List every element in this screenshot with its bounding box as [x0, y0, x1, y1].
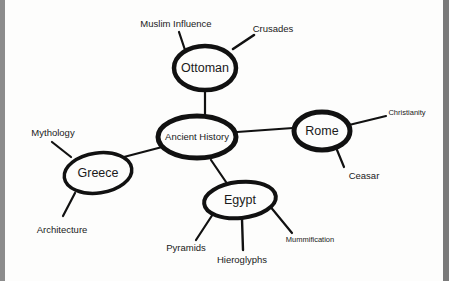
mind-map: Ottoman Ancient History Rome Greece Egyp… — [0, 0, 455, 281]
link-greece-architecture — [63, 193, 75, 216]
node-ancient-history-label: Ancient History — [165, 131, 229, 142]
link-rome-christianity — [349, 116, 386, 125]
link-center-egypt — [211, 160, 226, 182]
link-egypt-pyramids — [196, 214, 213, 240]
leaf-christianity: Christianity — [388, 108, 425, 117]
node-rome-label: Rome — [305, 124, 338, 138]
leaf-mummification: Mummification — [286, 235, 334, 244]
link-center-greece — [120, 146, 166, 158]
leaf-crusades: Crusades — [253, 23, 294, 34]
link-center-rome — [237, 128, 293, 132]
leaf-pyramids: Pyramids — [166, 242, 206, 253]
leaf-mythology: Mythology — [31, 127, 75, 138]
link-greece-mythology — [52, 142, 71, 157]
node-egypt-label: Egypt — [224, 193, 256, 207]
node-greece-label: Greece — [78, 166, 119, 180]
link-egypt-hieroglyphs — [242, 219, 243, 250]
link-ottoman-crusades — [233, 35, 254, 49]
link-rome-ceasar — [337, 150, 344, 167]
node-ottoman-label: Ottoman — [181, 61, 229, 75]
leaf-hieroglyphs: Hieroglyphs — [217, 254, 267, 265]
link-ottoman-muslim-influence — [179, 32, 185, 50]
leaf-ceasar: Ceasar — [349, 170, 380, 181]
link-egypt-mummification — [269, 205, 292, 233]
leaf-architecture: Architecture — [37, 224, 88, 235]
leaf-muslim-influence: Muslim Influence — [140, 18, 211, 29]
